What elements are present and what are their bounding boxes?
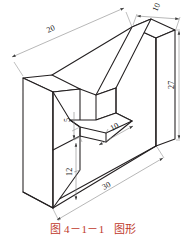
figure-caption-label: 图形	[114, 223, 137, 235]
figure-caption-number: 图 4－1－1	[50, 223, 105, 235]
dimension-5-notch-label: 5	[63, 118, 72, 122]
figure-canvas: 20 10 27 5 10	[0, 0, 186, 243]
dimension-27-right-label: 27	[167, 81, 176, 89]
dimension-30-bottom-label: 30	[101, 180, 113, 192]
figure-caption: 图 4－1－1图形	[0, 220, 186, 236]
solid-body	[23, 19, 175, 208]
isometric-drawing: 20 10 27 5 10	[0, 0, 186, 243]
dimension-10-top-right-label: 10	[151, 1, 163, 12]
left-slab-front-face	[23, 78, 53, 208]
dimension-12-left-label: 12	[65, 168, 74, 176]
dimension-20-top-left-label: 20	[45, 23, 56, 35]
